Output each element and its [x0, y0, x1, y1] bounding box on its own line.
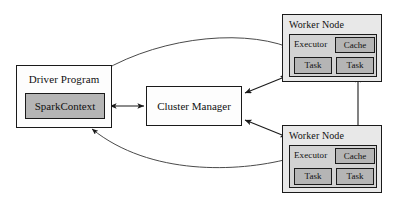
worker-node-2-cache-box: Cache — [335, 148, 375, 164]
worker-node-2-executor-box: Executor Cache Task Task — [289, 145, 377, 188]
worker-node-1-task-2-box: Task — [336, 57, 374, 74]
worker-node-1-box: Worker Node Executor Cache Task Task — [282, 14, 382, 82]
sparkcontext-box: SparkContext — [25, 93, 105, 119]
worker-node-2-cache-label: Cache — [344, 152, 367, 161]
worker-node-1-task-1-label: Task — [305, 61, 322, 70]
worker-node-1-label: Worker Node — [283, 20, 387, 30]
worker-node-2-label: Worker Node — [283, 131, 387, 141]
wire-sparkcontext-worker-1 — [90, 38, 288, 79]
wire-cluster-manager-worker-2 — [245, 120, 287, 137]
cluster-manager-box: Cluster Manager — [146, 86, 242, 126]
worker-node-1-cache-box: Cache — [335, 37, 375, 53]
worker-node-1-task-2-label: Task — [347, 61, 364, 70]
worker-node-2-task-1-box: Task — [294, 168, 332, 185]
worker-node-2-box: Worker Node Executor Cache Task Task — [282, 125, 382, 193]
worker-node-1-task-1-box: Task — [294, 57, 332, 74]
worker-node-1-executor-label: Executor — [290, 40, 327, 49]
cluster-manager-label: Cluster Manager — [157, 101, 231, 112]
sparkcontext-label: SparkContext — [35, 101, 96, 112]
worker-node-1-cache-label: Cache — [344, 41, 367, 50]
worker-node-2-executor-label: Executor — [290, 151, 327, 160]
worker-node-2-task-1-label: Task — [305, 172, 322, 181]
driver-program-label: Driver Program — [17, 74, 111, 85]
worker-node-1-executor-box: Executor Cache Task Task — [289, 34, 377, 77]
wire-sparkcontext-worker-2 — [92, 129, 288, 168]
worker-node-2-task-2-label: Task — [347, 172, 364, 181]
worker-node-2-task-2-box: Task — [336, 168, 374, 185]
wire-cluster-manager-worker-1 — [245, 76, 287, 93]
spark-architecture-diagram: Driver Program SparkContext Cluster Mana… — [0, 0, 393, 203]
driver-program-box: Driver Program SparkContext — [16, 65, 112, 128]
